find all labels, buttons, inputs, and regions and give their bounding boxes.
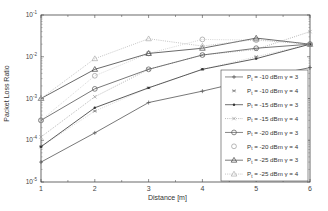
y-axis-label: Packet Loss Ratio	[3, 65, 10, 121]
x-tick-label: 2	[93, 185, 97, 192]
packet-loss-chart: 12345610-510-410-310-210-1 Pt = -10 dBm …	[0, 0, 328, 211]
y-tick-label: 10-3	[26, 94, 38, 102]
y-tick-label: 10-5	[26, 177, 38, 185]
x-tick-label: 1	[39, 185, 43, 192]
x-axis-label: Distance [m]	[148, 194, 187, 201]
x-tick-label: 4	[200, 185, 204, 192]
x-tick-label: 5	[254, 185, 258, 192]
x-tick-label: 3	[147, 185, 151, 192]
y-tick-label: 10-2	[26, 52, 38, 60]
y-tick-label: 10-4	[26, 135, 38, 143]
x-tick-label: 6	[308, 185, 312, 192]
legend: Pt = -10 dBm γ = 3Pt = -10 dBm γ = 4Pt =…	[221, 70, 308, 181]
y-tick-label: 10-1	[26, 10, 38, 18]
